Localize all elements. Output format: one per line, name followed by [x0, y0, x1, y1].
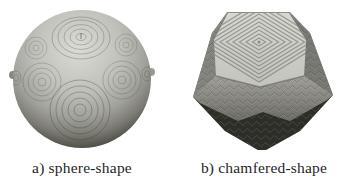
caption-chamfered-shape: b) chamfered-shape — [201, 159, 327, 176]
figure-two-shapes: a) sphere-shape b) chamfered-shape — [0, 0, 342, 192]
chamfered-shape-render — [193, 2, 333, 152]
sphere-shape-render — [9, 10, 155, 148]
caption-sphere-shape: a) sphere-shape — [32, 159, 132, 176]
